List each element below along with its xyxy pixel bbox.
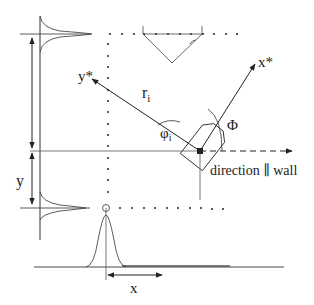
direction-label: direction ∥ wall (210, 163, 297, 178)
x-label: x (130, 280, 138, 296)
phi-i-label: φi (160, 125, 172, 143)
y-star-label: y* (78, 68, 93, 84)
top-triangle (143, 26, 202, 63)
molecule-center (197, 148, 203, 154)
x-star-label: x* (258, 54, 273, 70)
molecule-orientation-diagram: y direction ∥ wall y* x* ri (0, 0, 314, 305)
r-i-label: ri (142, 84, 150, 104)
y-label: y (16, 172, 24, 190)
Phi-label: Φ (227, 117, 238, 133)
left-y-distribution (20, 16, 92, 240)
Phi-arc (208, 109, 222, 151)
bottom-x-distribution (34, 205, 284, 281)
x-star-axis (200, 64, 255, 151)
